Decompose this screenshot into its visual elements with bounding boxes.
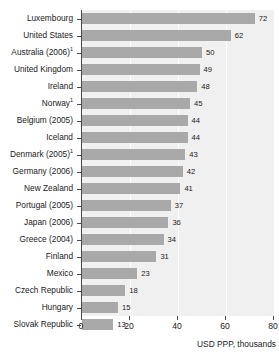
bar-chart: LuxembourgUnited StatesAustralia (2006)1… — [0, 0, 279, 358]
x-axis-tick-label: 80 — [268, 321, 278, 331]
plot-area: 72625049484544444342413736343123181513 — [81, 10, 274, 316]
x-axis-title: USD PPP, thousands — [197, 339, 276, 349]
bar-row: 42 — [82, 163, 274, 180]
category-label: Hungary — [0, 299, 77, 316]
x-axis-tick — [81, 316, 82, 320]
category-label: Denmark (2005)1 — [0, 146, 77, 163]
footnote-marker: 1 — [70, 97, 73, 103]
bar-row: 18 — [82, 282, 274, 299]
x-axis-tick — [129, 316, 130, 320]
x-axis-tick — [177, 316, 178, 320]
category-label: Portugal (2005) — [0, 197, 77, 214]
category-label: Australia (2006)1 — [0, 44, 77, 61]
bar-row: 44 — [82, 129, 274, 146]
category-label: New Zealand — [0, 180, 77, 197]
bar-value-label: 42 — [187, 166, 195, 177]
bar — [82, 149, 185, 160]
x-axis-tick-label: 20 — [124, 321, 134, 331]
bar — [82, 183, 180, 194]
bar — [82, 251, 156, 262]
x-axis-tick — [273, 316, 274, 320]
bar-value-label: 34 — [168, 234, 176, 245]
bar-row: 44 — [82, 112, 274, 129]
bar-value-label: 48 — [201, 81, 209, 92]
bar — [82, 64, 200, 75]
x-axis-tick-label: 40 — [172, 321, 182, 331]
bar-rows: 72625049484544444342413736343123181513 — [82, 10, 274, 316]
bar-row: 41 — [82, 180, 274, 197]
x-axis-tick — [225, 316, 226, 320]
bar-value-label: 41 — [184, 183, 192, 194]
bar — [82, 302, 118, 313]
category-axis-labels: LuxembourgUnited StatesAustralia (2006)1… — [0, 10, 77, 333]
bar — [82, 115, 188, 126]
bar-value-label: 23 — [141, 268, 149, 279]
bar-value-label: 37 — [175, 200, 183, 211]
bar — [82, 47, 202, 58]
x-axis-tick-label: 0 — [79, 321, 84, 331]
bar-row: 43 — [82, 146, 274, 163]
bar — [82, 217, 168, 228]
bar-row: 37 — [82, 197, 274, 214]
bar-row: 36 — [82, 214, 274, 231]
category-label: Norway1 — [0, 95, 77, 112]
category-label: Mexico — [0, 265, 77, 282]
category-label: Ireland — [0, 78, 77, 95]
bar-row: 72 — [82, 10, 274, 27]
bar — [82, 166, 183, 177]
bar-row: 50 — [82, 44, 274, 61]
x-axis-tick-labels: 020406080 — [81, 321, 273, 335]
bar-row: 45 — [82, 95, 274, 112]
category-label: Greece (2004) — [0, 231, 77, 248]
category-label: Germany (2006) — [0, 163, 77, 180]
bar-row: 62 — [82, 27, 274, 44]
bar-value-label: 49 — [204, 64, 212, 75]
bar-value-label: 43 — [189, 149, 197, 160]
bar-row: 49 — [82, 61, 274, 78]
gridline — [274, 10, 275, 316]
footnote-marker: 1 — [70, 46, 73, 52]
bar — [82, 132, 188, 143]
bar-value-label: 18 — [129, 285, 137, 296]
bar-value-label: 31 — [160, 251, 168, 262]
category-label: Finland — [0, 248, 77, 265]
bar-row: 48 — [82, 78, 274, 95]
category-label: Slovak Republic — [0, 316, 77, 333]
bar — [82, 200, 171, 211]
bar-value-label: 72 — [259, 13, 267, 24]
bar — [82, 98, 190, 109]
bar — [82, 234, 164, 245]
bar — [82, 13, 255, 24]
bar — [82, 30, 231, 41]
bar-value-label: 44 — [192, 132, 200, 143]
bar — [82, 81, 197, 92]
category-label: United Kingdom — [0, 61, 77, 78]
bar-value-label: 45 — [194, 98, 202, 109]
bar-value-label: 36 — [172, 217, 180, 228]
category-label: Belgium (2005) — [0, 112, 77, 129]
bar-row: 23 — [82, 265, 274, 282]
bar-value-label: 50 — [206, 47, 214, 58]
bar-value-label: 62 — [235, 30, 243, 41]
footnote-marker: 1 — [70, 148, 73, 154]
bar — [82, 268, 137, 279]
x-axis-tick-label: 60 — [220, 321, 230, 331]
bar-value-label: 44 — [192, 115, 200, 126]
category-label: Luxembourg — [0, 10, 77, 27]
category-label: United States — [0, 27, 77, 44]
category-label: Japan (2006) — [0, 214, 77, 231]
category-label: Czech Republic — [0, 282, 77, 299]
bar-row: 31 — [82, 248, 274, 265]
x-axis-tick-marks — [81, 316, 273, 320]
category-label: Iceland — [0, 129, 77, 146]
bar-row: 15 — [82, 299, 274, 316]
bar — [82, 285, 125, 296]
bar-value-label: 15 — [122, 302, 130, 313]
bar-row: 34 — [82, 231, 274, 248]
